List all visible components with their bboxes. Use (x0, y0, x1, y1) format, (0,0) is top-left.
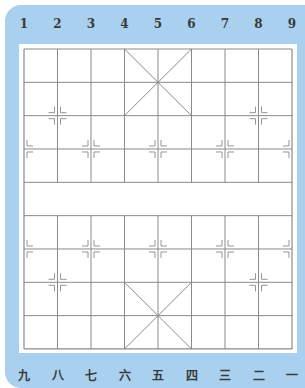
bottom-file-label-5: 五 (148, 366, 168, 383)
bottom-file-label-1: 九 (14, 366, 34, 383)
bottom-file-label-4: 六 (115, 366, 135, 383)
top-file-label-5: 5 (148, 17, 168, 31)
top-file-label-9: 9 (282, 17, 302, 31)
bottom-file-label-6: 四 (182, 366, 202, 383)
top-file-label-3: 3 (81, 17, 101, 31)
bottom-file-label-9: 一 (282, 366, 302, 383)
bottom-file-label-3: 七 (81, 366, 101, 383)
bottom-file-label-7: 三 (215, 366, 235, 383)
top-file-label-8: 8 (249, 17, 269, 31)
bottom-file-label-8: 二 (249, 366, 269, 383)
top-file-label-2: 2 (48, 17, 68, 31)
top-file-label-1: 1 (14, 17, 34, 31)
xiangqi-board (19, 44, 297, 353)
top-file-label-7: 7 (215, 17, 235, 31)
top-file-label-4: 4 (115, 17, 135, 31)
top-file-label-6: 6 (182, 17, 202, 31)
bottom-file-label-2: 八 (48, 366, 68, 383)
board-grid (19, 44, 297, 353)
